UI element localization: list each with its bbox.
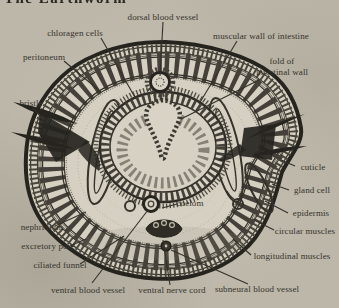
label-dorsal-blood-vessel: dorsal blood vessel [128,12,199,22]
label-fold-of: fold of [270,56,295,66]
label-gland-cell: gland cell [294,185,331,195]
subneural-vessel-lumen [165,245,168,248]
label-intestinal-wall: intestinal wall [256,67,309,77]
label-peritoneum: peritoneum [23,52,65,62]
label-excretory-pore: excretory pore [21,241,75,251]
label-ventral-blood-vessel: ventral blood vessel [51,285,125,295]
ventral-blood-vessel-ring [144,197,159,212]
label-cuticle: cuticle [301,162,326,172]
label-chloragen-cells: chloragen cells [47,28,103,38]
label-nephridium: nephridium [21,222,64,232]
label-bristle: bristle [19,98,42,108]
label-epidermis: epidermis [293,208,330,218]
label-ciliated-funnel: ciliated funnel [33,260,87,270]
earthworm-cross-section-figure: dorsal blood vessel chloragen cells musc… [0,0,339,308]
label-subneural-blood-vessel: subneural blood vessel [215,284,300,294]
label-muscular-wall: muscular wall of intestine [213,31,309,41]
ventral-nerve-cord [146,220,182,237]
cropped-page-heading-text: The Earthworm [4,0,169,5]
label-coelom: coelom [176,198,203,208]
cropped-page-heading: The Earthworm [4,0,169,5]
label-circular-muscles: circular muscles [275,226,336,236]
book-page: { "page": { "heading_fragment": "The Ear… [0,0,339,308]
label-ventral-nerve-cord: ventral nerve cord [138,285,206,295]
label-longitudinal-muscles: longitudinal muscles [254,251,331,261]
